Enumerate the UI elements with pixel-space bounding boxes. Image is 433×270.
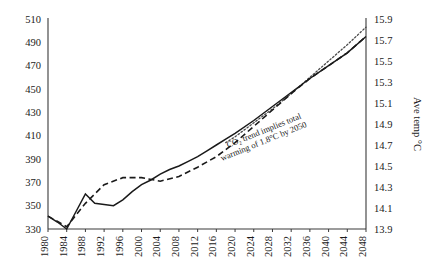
x-tick-label: 2048: [357, 236, 368, 257]
x-tick-label: 2028: [263, 236, 274, 257]
right-axis-tick-labels: 13.914.114.314.514.714.915.115.315.515.7…: [374, 14, 392, 235]
x-tick-label: 2024: [245, 235, 256, 257]
right-tick-label: 14.3: [374, 182, 392, 193]
series-line-co2-trend: [48, 37, 366, 227]
x-tick-label: 2044: [338, 235, 349, 257]
left-tick-label: 490: [25, 37, 41, 48]
right-tick-label: 15.5: [374, 56, 392, 67]
x-tick-label: 2020: [226, 236, 237, 257]
right-tick-label: 14.1: [374, 203, 392, 214]
left-tick-label: 470: [25, 60, 41, 71]
x-tick-label: 1996: [114, 236, 125, 257]
x-tick-label: 2012: [189, 236, 200, 257]
x-axis-tick-labels: 1980198419881992199620002004200820122016…: [39, 235, 368, 257]
chart-container: 330350370390410430450470490510 13.914.11…: [0, 0, 433, 270]
x-tick-label: 2004: [151, 235, 162, 257]
series-line-ave-temp: [48, 37, 366, 230]
x-tick-label: 2032: [282, 236, 293, 257]
left-tick-label: 510: [25, 14, 41, 25]
right-tick-label: 14.5: [374, 161, 392, 172]
x-tick-label: 2036: [301, 236, 312, 257]
left-tick-label: 410: [25, 130, 41, 141]
right-tick-label: 15.9: [374, 14, 392, 25]
x-tick-label: 1984: [58, 235, 69, 257]
right-tick-label: 14.7: [374, 140, 392, 151]
right-tick-label: 14.9: [374, 119, 392, 130]
left-tick-label: 350: [25, 200, 41, 211]
right-tick-label: 13.9: [374, 224, 392, 235]
x-tick-label: 1980: [39, 236, 50, 257]
left-tick-label: 430: [25, 107, 41, 118]
right-tick-label: 15.3: [374, 77, 392, 88]
x-tick-label: 2008: [170, 236, 181, 257]
x-tick-label: 2040: [320, 236, 331, 257]
left-axis-tick-labels: 330350370390410430450470490510: [25, 14, 41, 235]
left-tick-label: 330: [25, 224, 41, 235]
right-tick-label: 15.1: [374, 98, 392, 109]
left-tick-label: 390: [25, 154, 41, 165]
x-tick-label: 1992: [95, 236, 106, 257]
right-axis-title: Ave temp °C: [412, 97, 423, 151]
right-tick-label: 15.7: [374, 35, 392, 46]
left-tick-label: 370: [25, 177, 41, 188]
left-tick-label: 450: [25, 84, 41, 95]
x-tick-label: 1988: [76, 236, 87, 257]
x-tick-label: 2000: [133, 236, 144, 257]
line-chart: 330350370390410430450470490510 13.914.11…: [0, 0, 433, 270]
x-tick-label: 2016: [207, 236, 218, 257]
